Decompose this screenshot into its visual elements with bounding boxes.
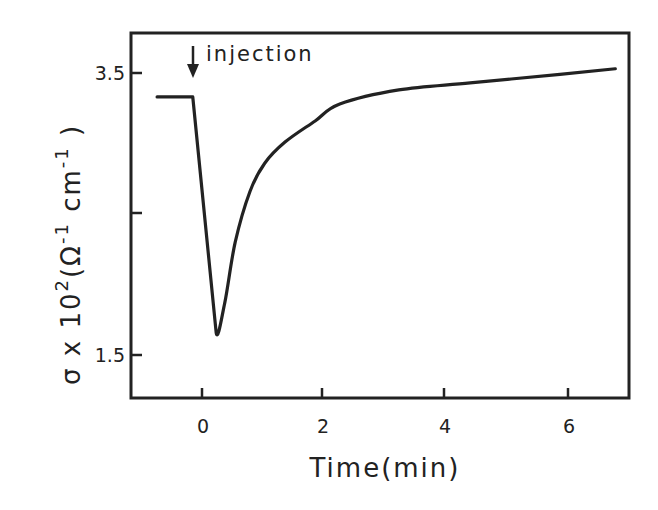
svg-text:σ x 102(Ω-1 cm-1 ): σ x 102(Ω-1 cm-1 ) xyxy=(51,124,86,385)
x-axis-title: Time(min) xyxy=(309,453,461,483)
x-tick-label-6: 6 xyxy=(563,415,575,437)
y-title-exp2: 2 xyxy=(51,278,72,291)
injection-arrow-icon xyxy=(187,46,199,78)
y-title-exp-m1b: -1 xyxy=(51,146,72,168)
y-title-cm: cm xyxy=(56,168,86,222)
x-tick-label-2: 2 xyxy=(317,415,329,437)
x-tick-label-4: 4 xyxy=(439,415,451,437)
injection-label: injection xyxy=(206,42,314,66)
y-title-close: ) xyxy=(56,124,86,146)
y-title-sigma: σ xyxy=(56,367,86,385)
y-title-exp-m1a: -1 xyxy=(51,222,72,244)
conductivity-curve xyxy=(157,69,615,335)
chart: 3.5 1.5 0 2 4 6 Time(min) σ x 102(Ω-1 cm… xyxy=(0,0,658,510)
x-tick-label-0: 0 xyxy=(197,415,209,437)
y-title-times: x 10 xyxy=(56,292,86,367)
y-axis-ticks xyxy=(131,73,142,355)
y-axis-title: σ x 102(Ω-1 cm-1 ) xyxy=(51,124,86,385)
y-tick-label-3-5: 3.5 xyxy=(95,62,125,84)
y-tick-label-1-5: 1.5 xyxy=(95,344,125,366)
y-title-ohm: (Ω xyxy=(56,244,86,278)
